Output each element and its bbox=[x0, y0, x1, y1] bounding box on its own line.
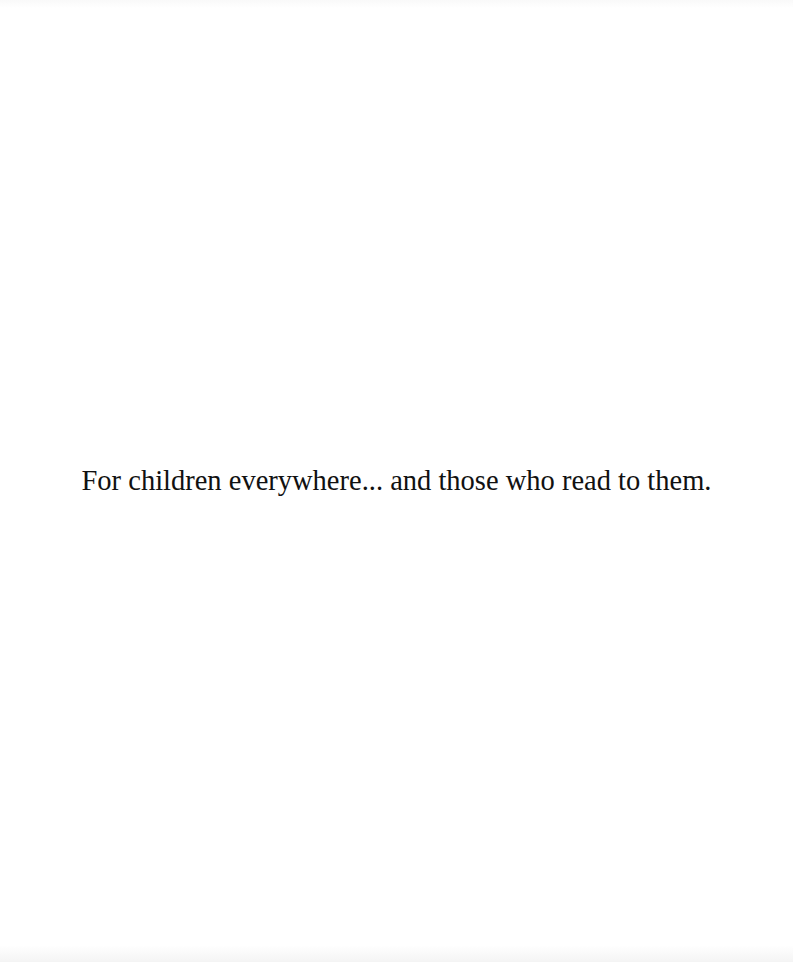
dedication-page: For children everywhere... and those who… bbox=[0, 0, 793, 962]
dedication-text: For children everywhere... and those who… bbox=[0, 463, 793, 499]
